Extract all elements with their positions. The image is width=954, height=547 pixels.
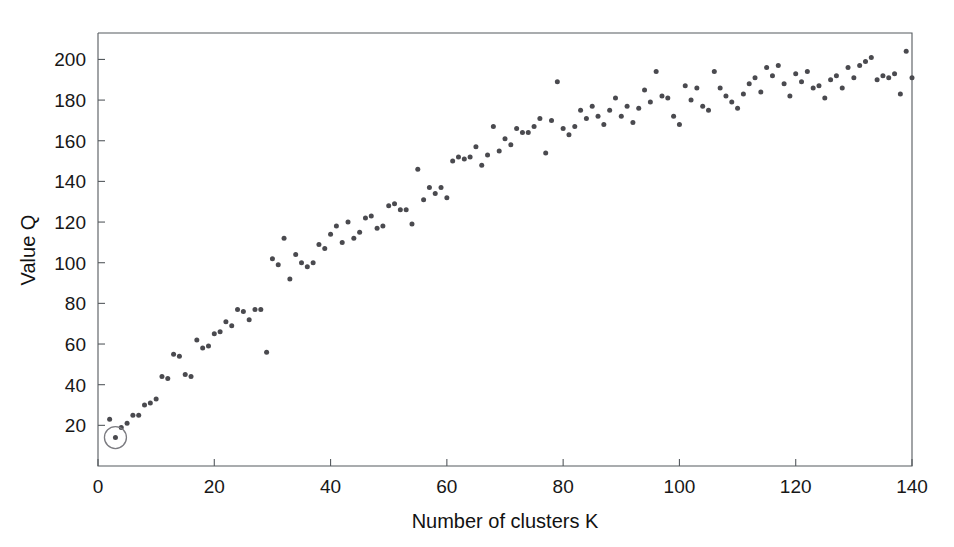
data-point [136, 413, 141, 418]
y-axis-ticks: 20406080100120140160180200 [54, 49, 105, 436]
y-tick-label: 160 [54, 131, 86, 152]
x-axis-ticks: 020406080100120140 [93, 459, 928, 497]
data-point [654, 69, 659, 74]
data-point [584, 116, 589, 121]
data-point [851, 75, 856, 80]
data-point [194, 337, 199, 342]
data-point [130, 413, 135, 418]
x-tick-label: 0 [93, 476, 104, 497]
data-point [165, 376, 170, 381]
data-point [799, 79, 804, 84]
data-point [648, 100, 653, 105]
data-point [287, 276, 292, 281]
data-point [630, 120, 635, 125]
data-point [537, 116, 542, 121]
y-tick-label: 200 [54, 49, 86, 70]
data-point [526, 130, 531, 135]
data-point [404, 207, 409, 212]
data-point [305, 264, 310, 269]
data-point [183, 372, 188, 377]
data-point [846, 65, 851, 70]
data-point [723, 94, 728, 99]
data-point [706, 108, 711, 113]
data-point [311, 260, 316, 265]
data-point [369, 213, 374, 218]
data-point [334, 224, 339, 229]
y-tick-label: 20 [65, 415, 86, 436]
x-tick-label: 100 [664, 476, 696, 497]
data-point [811, 85, 816, 90]
data-point [787, 94, 792, 99]
data-point [543, 150, 548, 155]
data-point [700, 104, 705, 109]
data-point [386, 203, 391, 208]
data-point [462, 157, 467, 162]
data-point [689, 98, 694, 103]
data-point [468, 155, 473, 160]
data-point [753, 75, 758, 80]
data-point [444, 195, 449, 200]
data-point [363, 215, 368, 220]
data-point [671, 114, 676, 119]
data-point [380, 224, 385, 229]
data-point [357, 230, 362, 235]
data-point [904, 49, 909, 54]
data-point [491, 124, 496, 129]
data-point [427, 185, 432, 190]
data-point [898, 91, 903, 96]
data-point [880, 73, 885, 78]
data-point [200, 346, 205, 351]
data-point [485, 152, 490, 157]
data-points-layer [107, 49, 914, 440]
y-tick-label: 80 [65, 293, 86, 314]
data-point [223, 319, 228, 324]
data-point [473, 144, 478, 149]
x-tick-label: 20 [204, 476, 225, 497]
data-point [282, 236, 287, 241]
data-point [456, 155, 461, 160]
data-point [636, 106, 641, 111]
data-point [712, 69, 717, 74]
data-point [497, 148, 502, 153]
data-point [392, 201, 397, 206]
data-point [578, 108, 583, 113]
data-point [328, 232, 333, 237]
data-point [235, 307, 240, 312]
data-point [450, 159, 455, 164]
data-point [782, 81, 787, 86]
data-point [718, 85, 723, 90]
data-point [561, 126, 566, 131]
data-point [822, 96, 827, 101]
data-point [270, 256, 275, 261]
data-point [212, 331, 217, 336]
data-point [125, 421, 130, 426]
data-point [642, 87, 647, 92]
data-point [258, 307, 263, 312]
y-tick-label: 140 [54, 171, 86, 192]
data-point [159, 374, 164, 379]
data-point [869, 55, 874, 60]
x-tick-label: 60 [436, 476, 457, 497]
data-point [875, 77, 880, 82]
data-point [729, 100, 734, 105]
data-point [735, 106, 740, 111]
y-tick-label: 100 [54, 253, 86, 274]
data-point [741, 91, 746, 96]
data-point [148, 400, 153, 405]
x-tick-label: 40 [320, 476, 341, 497]
data-point [206, 344, 211, 349]
data-point [590, 104, 595, 109]
data-point [683, 83, 688, 88]
data-point [625, 104, 630, 109]
data-point [479, 163, 484, 168]
data-point [229, 323, 234, 328]
data-point [421, 197, 426, 202]
data-point [892, 71, 897, 76]
data-point [293, 252, 298, 257]
data-point [834, 73, 839, 78]
data-point [677, 122, 682, 127]
data-point [840, 85, 845, 90]
data-point [316, 242, 321, 247]
data-point [828, 77, 833, 82]
data-point [252, 307, 257, 312]
